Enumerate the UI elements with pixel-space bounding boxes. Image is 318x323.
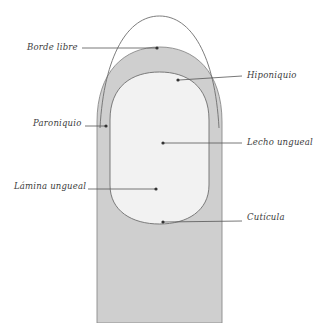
leader-dot-cuticula (161, 220, 164, 223)
label-hiponiquio: Hiponiquio (247, 70, 297, 80)
leader-dot-hiponiquio (176, 78, 179, 81)
leader-dot-lecho-ungueal (161, 141, 164, 144)
label-lamina-ungueal: Lámina ungueal (14, 181, 86, 191)
label-lecho-ungueal: Lecho ungueal (247, 137, 313, 147)
leader-dot-paroniquio (104, 124, 107, 127)
label-cuticula: Cutícula (247, 212, 285, 222)
nail-anatomy-diagram: Borde libre Paroniquio Lámina ungueal Hi… (0, 0, 318, 323)
label-paroniquio: Paroniquio (33, 118, 82, 128)
leader-dot-borde-libre (155, 46, 158, 49)
nail-plate-shape (110, 72, 209, 224)
label-borde-libre: Borde libre (27, 42, 78, 52)
leader-dot-lamina-ungueal (154, 187, 157, 190)
